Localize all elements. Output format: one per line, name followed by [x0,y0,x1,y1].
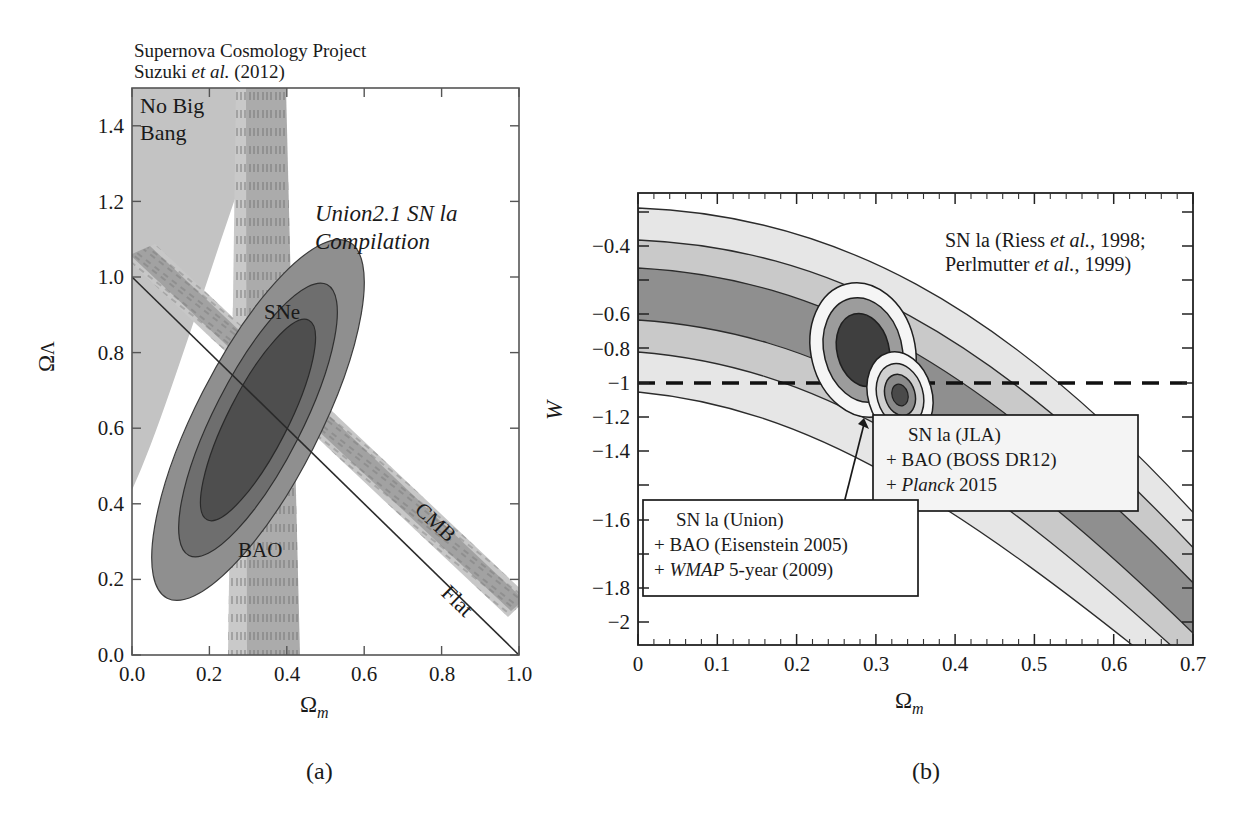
y-tick-b-6: −1.6 [578,508,630,533]
x-tick-a-4: 0.8 [422,662,462,687]
union-line1: SN la (Union) [654,507,848,532]
y-tick-a-5: 1.0 [78,265,124,290]
y-tick-b-7: −1.8 [578,576,630,601]
panel-a-credit: Supernova Cosmology Project Suzuki et al… [134,40,366,83]
jla-line1: SN la (JLA) [886,422,1057,447]
union-l3-it: WMAP [669,559,724,580]
credit-b-italic1: et al. [1050,229,1090,251]
jla-l3-p2: 2015 [954,474,997,495]
x-axis-a-omega: Ω [300,692,317,717]
x-tick-b-5: 0.5 [1014,652,1054,677]
label-sne: SNe [264,300,300,325]
panel-b: SN la (Riess et al., 1998; Perlmutter et… [600,0,1250,824]
panel-b-credit: SN la (Riess et al., 1998; Perlmutter et… [945,228,1146,277]
y-tick-a-6: 1.2 [78,190,124,215]
x-tick-a-5: 1.0 [499,662,539,687]
panel-b-credit-line1: SN la (Riess et al., 1998; [945,228,1146,252]
credit-a-plain1: Suzuki [134,61,192,82]
label-bao: BAO [238,538,282,563]
jla-l3-p1: + [886,474,901,495]
credit-b-plain2: , 1998; [1090,229,1146,251]
y-tick-a-1: 0.2 [78,567,124,592]
x-tick-b-2: 0.2 [777,652,817,677]
y-tick-b-3: −1 [578,371,630,396]
credit-b-plain4: , 1999) [1074,253,1131,275]
panel-a-y-axis-title: ΩΛ [34,341,60,372]
credit-a-plain2: (2012) [230,61,285,82]
credit-a-italic: et al. [192,61,230,82]
x-tick-b-4: 0.4 [935,652,975,677]
y-tick-a-7: 1.4 [78,114,124,139]
y-tick-b-8: −2 [578,610,630,635]
y-axis-a-sub: Λ [37,341,58,355]
figure-root: Supernova Cosmology Project Suzuki et al… [0,0,1250,824]
union-line1: Union2.1 SN la [315,200,457,228]
panel-a-sublabel: (a) [306,758,333,785]
x-axis-b-omega: Ω [895,688,912,713]
union-l3-p2: 5-year (2009) [724,559,833,580]
credit-b-italic2: et al. [1034,253,1074,275]
y-tick-a-3: 0.6 [78,416,124,441]
x-tick-b-0: 0 [618,652,658,677]
annotation-jla-text: SN la (JLA) + BAO (BOSS DR12) + Planck 2… [886,422,1057,497]
jla-line2: + BAO (BOSS DR12) [886,447,1057,472]
y-tick-b-1: −0.6 [578,302,630,327]
jla-line3: + Planck 2015 [886,472,1057,497]
x-axis-b-sub: m [912,700,924,717]
x-tick-b-7: 0.7 [1173,652,1213,677]
y-tick-a-2: 0.4 [78,492,124,517]
x-tick-b-1: 0.1 [697,652,737,677]
panel-b-canvas [600,0,1250,824]
panel-b-x-axis-title: Ωm [895,688,924,718]
panel-a: Supernova Cosmology Project Suzuki et al… [0,0,600,824]
annotation-no-big-bang: No Big Bang [140,93,204,147]
y-tick-a-0: 0.0 [78,643,124,668]
x-tick-b-3: 0.3 [856,652,896,677]
y-tick-b-0: −0.4 [578,234,630,259]
no-big-bang-line1: No Big [140,93,204,120]
y-tick-b-5: −1.4 [578,439,630,464]
panel-b-credit-line2: Perlmutter et al., 1999) [945,252,1146,276]
y-tick-b-2: −0.8 [578,337,630,362]
y-tick-b-4: −1.2 [578,405,630,430]
jla-l3-it: Planck [901,474,954,495]
union-l3-p1: + [654,559,669,580]
panel-b-sublabel: (b) [912,758,940,785]
annotation-union-compilation: Union2.1 SN la Compilation [315,200,457,256]
credit-b-plain3: Perlmutter [945,253,1034,275]
panel-a-credit-line2: Suzuki et al. (2012) [134,61,366,82]
x-tick-a-2: 0.4 [267,662,307,687]
x-tick-a-3: 0.6 [344,662,384,687]
union-line2: + BAO (Eisenstein 2005) [654,532,848,557]
x-axis-a-sub: m [317,704,329,721]
annotation-union-text: SN la (Union) + BAO (Eisenstein 2005) + … [654,507,848,582]
y-axis-a-omega: Ω [34,355,59,372]
credit-b-plain1: SN la (Riess [945,229,1050,251]
panel-b-y-axis-title: W [542,401,568,420]
no-big-bang-line2: Bang [140,120,204,147]
y-tick-a-4: 0.8 [78,341,124,366]
x-tick-a-1: 0.2 [189,662,229,687]
panel-a-credit-line1: Supernova Cosmology Project [134,40,366,61]
union-line2: Compilation [315,228,457,256]
x-tick-b-6: 0.6 [1094,652,1134,677]
panel-a-x-axis-title: Ωm [300,692,329,722]
union-line3: + WMAP 5-year (2009) [654,557,848,582]
